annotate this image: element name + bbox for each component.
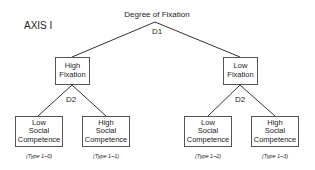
node-line: Fixation xyxy=(59,71,85,80)
leaf-low-social-competence-1: Low Social Competence xyxy=(15,116,63,147)
node-line: Fixation xyxy=(227,71,253,80)
leaf-high-social-competence-2: High Social Competence xyxy=(251,116,299,147)
node-high-fixation: High Fixation xyxy=(55,57,90,85)
decision-d2-left-label: D2 xyxy=(66,96,76,104)
node-line: Competence xyxy=(18,136,61,145)
node-low-fixation: Low Fixation xyxy=(223,57,258,85)
type-label-1-0: (Type 1–0) xyxy=(26,153,52,159)
axis-title: AXIS I xyxy=(24,21,52,31)
type-label-1-1: (Type 1–1) xyxy=(93,153,119,159)
root-node-label: Degree of Fixation xyxy=(124,11,189,19)
type-label-1-2: (Type 1–2) xyxy=(195,153,221,159)
node-line: Competence xyxy=(187,136,230,145)
node-line: Competence xyxy=(254,136,297,145)
decision-d1-label: D1 xyxy=(152,28,162,36)
leaf-high-social-competence-1: High Social Competence xyxy=(82,116,130,147)
node-line: Competence xyxy=(85,136,128,145)
type-label-1-3: (Type 1–3) xyxy=(262,153,288,159)
leaf-low-social-competence-2: Low Social Competence xyxy=(184,116,232,147)
decision-d2-right-label: D2 xyxy=(235,96,245,104)
